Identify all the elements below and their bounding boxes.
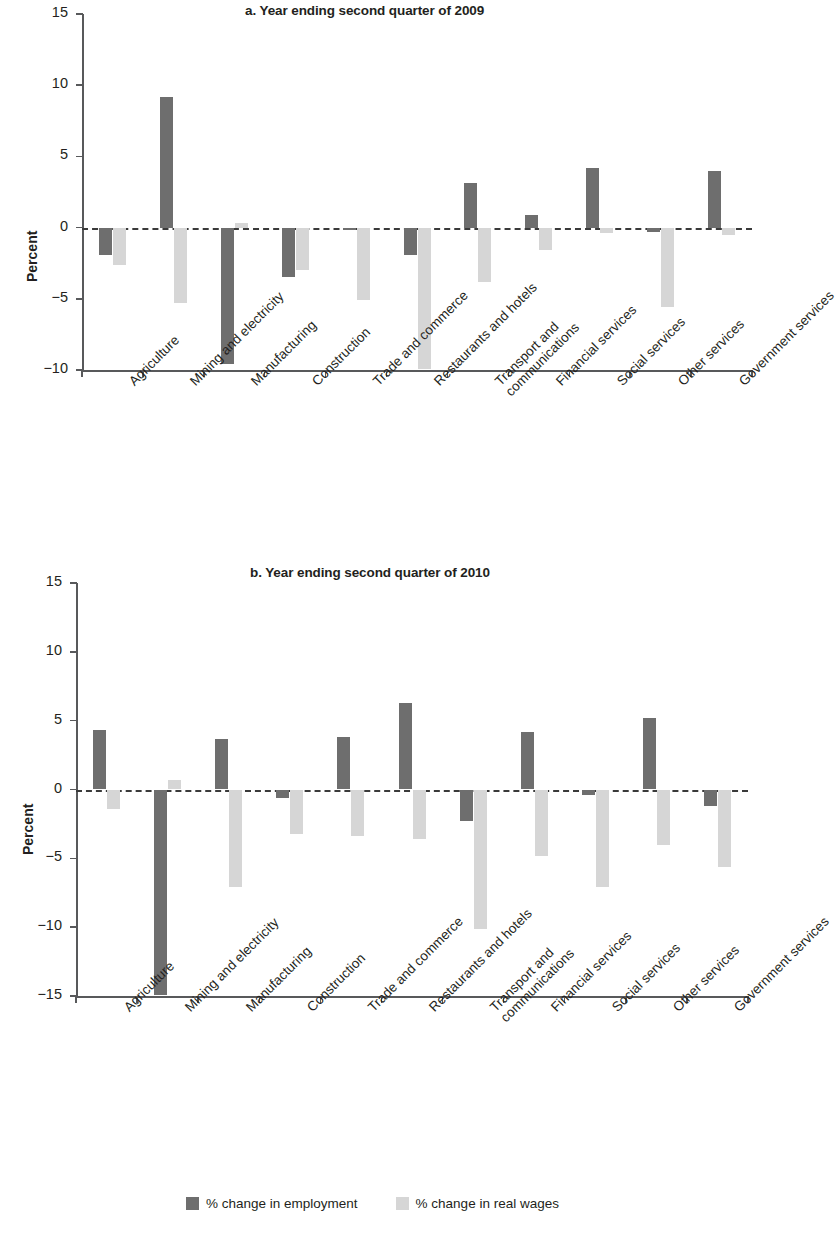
y-axis-tick-label: 5 bbox=[22, 711, 62, 727]
x-axis-line bbox=[82, 370, 752, 372]
bar-employment bbox=[708, 171, 721, 228]
y-axis-tick-label: −15 bbox=[22, 986, 62, 1002]
chart-a-plot-area: 151050−5−10 bbox=[82, 14, 752, 370]
y-axis-tick bbox=[76, 84, 83, 86]
bar-employment bbox=[93, 730, 106, 789]
y-axis-tick-label: −10 bbox=[28, 360, 68, 376]
bar-real-wages bbox=[229, 790, 242, 888]
y-axis-line bbox=[82, 14, 84, 370]
bar-employment bbox=[460, 790, 473, 822]
bar-employment bbox=[582, 790, 595, 796]
y-axis-tick bbox=[70, 651, 77, 653]
y-axis-tick-label: 0 bbox=[22, 780, 62, 796]
y-axis-tick bbox=[76, 298, 83, 300]
bar-real-wages bbox=[718, 790, 731, 867]
legend-label-wages: % change in real wages bbox=[416, 1196, 559, 1211]
bar-real-wages bbox=[290, 790, 303, 834]
y-axis-tick-label: 15 bbox=[28, 4, 68, 20]
bar-real-wages bbox=[351, 790, 364, 837]
bar-real-wages bbox=[413, 790, 426, 840]
bar-employment bbox=[521, 732, 534, 790]
bar-employment bbox=[643, 718, 656, 790]
y-axis-tick-label: 10 bbox=[28, 75, 68, 91]
y-axis-tick bbox=[70, 926, 77, 928]
bar-employment bbox=[464, 183, 477, 227]
y-axis-tick bbox=[76, 13, 83, 15]
bar-employment bbox=[399, 703, 412, 790]
bar-real-wages bbox=[107, 790, 120, 809]
legend-swatch-employment-icon bbox=[186, 1197, 199, 1210]
chart-b-title: b. Year ending second quarter of 2010 bbox=[250, 565, 490, 580]
x-axis-tick bbox=[75, 996, 77, 1003]
y-axis-tick bbox=[70, 582, 77, 584]
y-axis-tick-label: 5 bbox=[28, 146, 68, 162]
legend-item-employment: % change in employment bbox=[186, 1196, 358, 1211]
y-axis-tick-label: −5 bbox=[22, 848, 62, 864]
bar-real-wages bbox=[235, 223, 248, 227]
bar-employment bbox=[337, 737, 350, 789]
bar-employment bbox=[276, 790, 289, 798]
bar-employment bbox=[586, 168, 599, 228]
bar-real-wages bbox=[113, 228, 126, 265]
chart-b-y-axis-label: Percent bbox=[20, 804, 36, 855]
y-axis-tick bbox=[70, 720, 77, 722]
y-axis-tick-label: 0 bbox=[28, 218, 68, 234]
bar-employment bbox=[704, 790, 717, 807]
y-axis-tick bbox=[76, 156, 83, 158]
bar-real-wages bbox=[535, 790, 548, 856]
bar-employment bbox=[99, 228, 112, 255]
legend-swatch-wages-icon bbox=[396, 1197, 409, 1210]
y-axis-tick-label: −10 bbox=[22, 917, 62, 933]
chart-b-plot-area: 151050−5−10−15 bbox=[76, 583, 748, 996]
bar-employment bbox=[215, 739, 228, 790]
y-axis-tick bbox=[70, 858, 77, 860]
figure-legend: % change in employment % change in real … bbox=[186, 1196, 559, 1211]
y-axis-tick-label: 10 bbox=[22, 642, 62, 658]
bar-real-wages bbox=[539, 228, 552, 251]
y-axis-tick-label: −5 bbox=[28, 289, 68, 305]
bar-real-wages bbox=[168, 780, 181, 790]
x-axis-line bbox=[76, 996, 748, 998]
bar-real-wages bbox=[596, 790, 609, 888]
legend-item-wages: % change in real wages bbox=[396, 1196, 559, 1211]
chart-a-y-axis-label: Percent bbox=[24, 231, 40, 282]
bar-real-wages bbox=[174, 228, 187, 303]
y-axis-tick-label: 15 bbox=[22, 573, 62, 589]
x-axis-tick bbox=[81, 370, 83, 377]
legend-label-employment: % change in employment bbox=[206, 1196, 358, 1211]
bar-real-wages bbox=[600, 228, 613, 234]
bar-employment bbox=[160, 97, 173, 228]
bar-real-wages bbox=[657, 790, 670, 845]
bar-real-wages bbox=[722, 228, 735, 235]
